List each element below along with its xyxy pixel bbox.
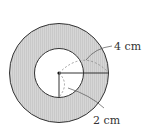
inner-radius-label: 2 cm — [93, 114, 121, 127]
annulus-diagram: 4 cm 2 cm — [0, 0, 156, 131]
outer-radius-label: 4 cm — [114, 40, 142, 53]
